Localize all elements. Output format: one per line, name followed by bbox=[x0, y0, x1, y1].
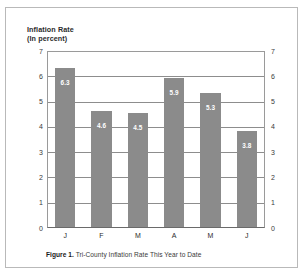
plot-area: 6.34.64.55.95.33.8 bbox=[47, 51, 265, 228]
y-axis-tick-label: 6 bbox=[271, 73, 285, 80]
figure-frame: Inflation Rate (In percent) 6.34.64.55.9… bbox=[5, 7, 298, 268]
y-axis-tick-label: 7 bbox=[271, 48, 285, 55]
y-axis-tick-label: 7 bbox=[29, 48, 43, 55]
x-axis-tick-label: A bbox=[159, 232, 189, 239]
figure-caption: Figure 1. Tri-County Inflation Rate This… bbox=[46, 251, 201, 258]
chart-title-line2: (In percent) bbox=[27, 34, 74, 43]
y-axis-tick-label: 4 bbox=[29, 123, 43, 130]
chart-title-line1: Inflation Rate bbox=[27, 25, 74, 34]
y-axis-tick-label: 4 bbox=[271, 123, 285, 130]
y-axis-tick-label: 3 bbox=[271, 149, 285, 156]
x-axis-tick-label: J bbox=[50, 232, 80, 239]
y-axis-tick-label: 0 bbox=[29, 225, 43, 232]
y-axis-tick-label: 5 bbox=[29, 98, 43, 105]
y-axis-tick-label: 6 bbox=[29, 73, 43, 80]
figure-caption-label: Figure 1. bbox=[46, 251, 74, 258]
y-axis-tick-label: 5 bbox=[271, 98, 285, 105]
y-axis-tick-label: 3 bbox=[29, 149, 43, 156]
plot-frame bbox=[47, 51, 265, 228]
chart-axis-title: Inflation Rate (In percent) bbox=[27, 25, 74, 43]
figure-caption-text: Tri-County Inflation Rate This Year to D… bbox=[74, 251, 201, 258]
x-axis-tick-label: M bbox=[196, 232, 226, 239]
y-axis-tick-label: 2 bbox=[271, 174, 285, 181]
x-axis-tick-label: M bbox=[123, 232, 153, 239]
x-axis-tick-label: J bbox=[232, 232, 262, 239]
y-axis-tick-label: 2 bbox=[29, 174, 43, 181]
y-axis-tick-label: 1 bbox=[271, 199, 285, 206]
x-axis-tick-label: F bbox=[87, 232, 117, 239]
y-axis-tick-label: 0 bbox=[271, 225, 285, 232]
y-axis-tick-label: 1 bbox=[29, 199, 43, 206]
